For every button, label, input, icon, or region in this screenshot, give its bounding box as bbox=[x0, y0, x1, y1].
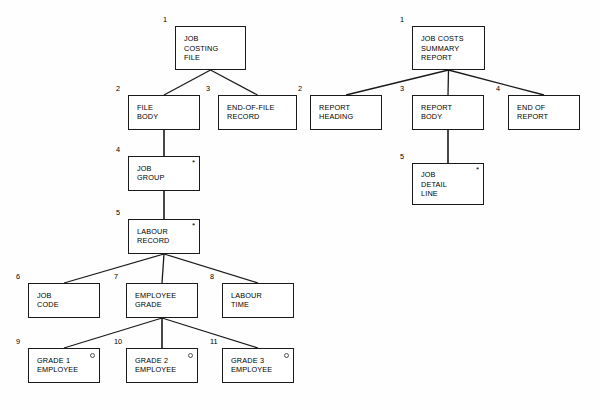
node-label: GRADE 1 EMPLOYEE bbox=[37, 356, 78, 375]
diagram-node[interactable]: JOB GROUP* bbox=[128, 156, 200, 191]
node-sequence-number: 2 bbox=[116, 85, 120, 93]
node-label: EMPLOYEE GRADE bbox=[135, 291, 176, 310]
selection-circle-icon bbox=[188, 353, 193, 358]
node-sequence-number: 1 bbox=[163, 16, 167, 24]
iteration-asterisk-icon: * bbox=[192, 223, 195, 229]
node-sequence-number: 7 bbox=[114, 273, 118, 281]
node-label: REPORT BODY bbox=[421, 103, 452, 122]
diagram-node[interactable]: FILE BODY bbox=[128, 95, 200, 130]
connector-line bbox=[346, 70, 449, 95]
diagram-node[interactable]: GRADE 1 EMPLOYEE bbox=[28, 348, 100, 383]
selection-circle-icon bbox=[90, 353, 95, 358]
node-label: JOB GROUP bbox=[137, 164, 165, 183]
connector-line bbox=[164, 70, 211, 95]
node-sequence-number: 2 bbox=[298, 85, 302, 93]
connector-line bbox=[211, 70, 258, 95]
diagram-canvas: 1JOB COSTING FILE2FILE BODY3END-OF-FILE … bbox=[0, 0, 600, 410]
node-label: REPORT HEADING bbox=[319, 103, 353, 122]
diagram-node[interactable]: JOB COSTING FILE bbox=[175, 26, 246, 70]
node-sequence-number: 1 bbox=[400, 16, 404, 24]
node-label: LABOUR RECORD bbox=[137, 227, 170, 246]
node-sequence-number: 4 bbox=[496, 85, 500, 93]
node-sequence-number: 10 bbox=[114, 338, 122, 346]
node-label: END-OF-FILE RECORD bbox=[227, 103, 274, 122]
node-label: LABOUR TIME bbox=[231, 291, 262, 310]
diagram-node[interactable]: JOB DETAIL LINE* bbox=[412, 163, 484, 205]
diagram-node[interactable]: GRADE 3 EMPLOYEE bbox=[222, 348, 294, 383]
connector-line bbox=[448, 70, 449, 95]
node-sequence-number: 5 bbox=[400, 153, 404, 161]
iteration-asterisk-icon: * bbox=[192, 160, 195, 166]
diagram-node[interactable]: END OF REPORT bbox=[508, 95, 580, 130]
node-sequence-number: 8 bbox=[210, 273, 214, 281]
node-sequence-number: 11 bbox=[210, 338, 218, 346]
node-label: GRADE 2 EMPLOYEE bbox=[135, 356, 176, 375]
node-label: JOB COSTING FILE bbox=[184, 34, 218, 63]
node-label: JOB CODE bbox=[37, 291, 59, 310]
diagram-node[interactable]: GRADE 2 EMPLOYEE bbox=[126, 348, 198, 383]
connector-line bbox=[162, 254, 164, 283]
node-sequence-number: 5 bbox=[116, 209, 120, 217]
diagram-node[interactable]: JOB COSTS SUMMARY REPORT bbox=[412, 26, 485, 70]
node-label: JOB COSTS SUMMARY REPORT bbox=[421, 34, 464, 63]
node-sequence-number: 4 bbox=[116, 146, 120, 154]
node-label: GRADE 3 EMPLOYEE bbox=[231, 356, 272, 375]
node-label: JOB DETAIL LINE bbox=[421, 170, 447, 199]
node-sequence-number: 3 bbox=[206, 85, 210, 93]
diagram-node[interactable]: EMPLOYEE GRADE bbox=[126, 283, 198, 318]
diagram-node[interactable]: JOB CODE bbox=[28, 283, 100, 318]
diagram-node[interactable]: REPORT BODY bbox=[412, 95, 484, 130]
diagram-node[interactable]: REPORT HEADING bbox=[310, 95, 382, 130]
diagram-node[interactable]: END-OF-FILE RECORD bbox=[218, 95, 297, 130]
node-sequence-number: 3 bbox=[400, 85, 404, 93]
node-label: FILE BODY bbox=[137, 103, 158, 122]
diagram-node[interactable]: LABOUR RECORD* bbox=[128, 219, 200, 254]
diagram-node[interactable]: LABOUR TIME bbox=[222, 283, 294, 318]
node-sequence-number: 9 bbox=[16, 338, 20, 346]
iteration-asterisk-icon: * bbox=[476, 167, 479, 173]
connector-line bbox=[64, 318, 162, 348]
node-sequence-number: 6 bbox=[16, 273, 20, 281]
node-label: END OF REPORT bbox=[517, 103, 548, 122]
selection-circle-icon bbox=[284, 353, 289, 358]
